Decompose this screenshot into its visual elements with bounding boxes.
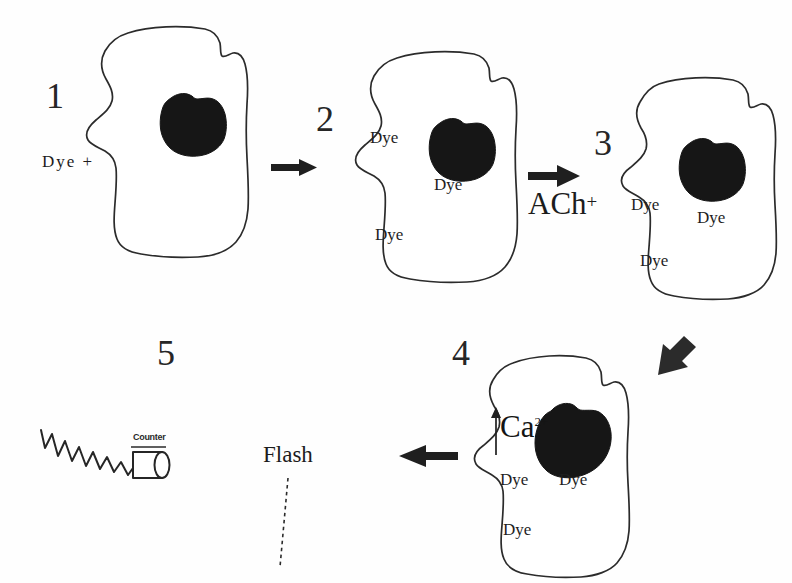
nucleus-step3: [679, 139, 745, 202]
counter-label: Counter: [133, 432, 165, 442]
flash-label: Flash: [263, 443, 313, 466]
dye-label-step2-b: Dye: [434, 176, 462, 193]
dye-label-step3-b: Dye: [697, 209, 725, 226]
step-number-1: 1: [46, 78, 64, 114]
calcium-charge: 2+: [534, 414, 547, 429]
step-number-4: 4: [452, 335, 470, 371]
dye-label-step4-b: Dye: [559, 471, 587, 488]
dye-label-step2-a: Dye: [370, 129, 398, 146]
nucleus-step1: [160, 94, 226, 157]
arrow-step4-to-step5: [399, 445, 458, 467]
diagram-vector-layer: [0, 0, 792, 583]
ach-label: ACh+: [528, 188, 597, 219]
dye-label-step3-c: Dye: [640, 252, 668, 269]
step-number-3: 3: [594, 125, 612, 161]
arrow-step3-to-step4: [658, 336, 696, 375]
calcium-text: Ca: [500, 409, 534, 444]
dye-label-step4-a: Dye: [500, 471, 528, 488]
arrow-step1-to-step2: [271, 159, 317, 176]
counter-device: [131, 447, 170, 478]
dye-label-step2-c: Dye: [375, 226, 403, 243]
ach-text: ACh: [528, 186, 587, 221]
flash-dashed-line: [280, 478, 288, 567]
ach-plus: +: [587, 191, 598, 212]
nucleus-step2: [429, 119, 495, 182]
step-number-2: 2: [316, 101, 334, 137]
signal-trace: [41, 430, 133, 475]
dye-label-step4-c: Dye: [503, 521, 531, 538]
figure-canvas: 1 2 3 4 5 Dye + Dye Dye Dye ACh+ Dye Dye…: [0, 0, 792, 583]
dye-label-step3-a: Dye: [631, 196, 659, 213]
step-number-5: 5: [157, 335, 175, 371]
calcium-ion-label: Ca2+: [500, 411, 547, 442]
dye-plus-label-step1: Dye +: [42, 153, 94, 170]
arrow-step2-to-step3: [528, 165, 580, 187]
